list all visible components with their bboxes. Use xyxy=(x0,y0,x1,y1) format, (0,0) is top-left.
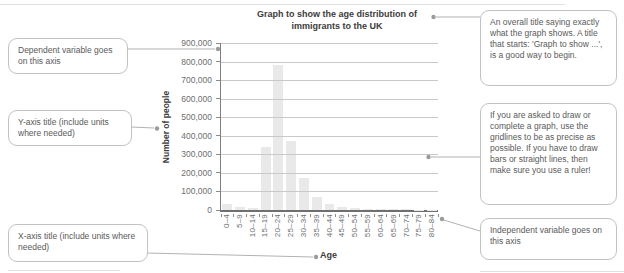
gridline xyxy=(221,154,438,155)
x-tick-label: 25–29 xyxy=(286,214,295,237)
bar-slot xyxy=(298,43,311,210)
bar-slot xyxy=(247,43,260,210)
y-tick-label: 600,000 xyxy=(150,94,212,104)
x-tick-label: 10–14 xyxy=(248,214,257,237)
y-tick xyxy=(216,191,220,192)
y-tick-label: 400,000 xyxy=(150,131,212,141)
bar-slot xyxy=(361,43,374,210)
callout-x-axis-title: X-axis title (include units where needed… xyxy=(8,224,148,262)
y-tick xyxy=(216,154,220,155)
gridline xyxy=(221,117,438,118)
page-rule-bottom-left xyxy=(8,270,120,271)
x-tick xyxy=(310,214,311,217)
callout-independent-variable: Independent variable goes on this axis xyxy=(480,218,617,260)
bar-slot xyxy=(323,43,336,210)
x-tick-slot: 5–9 xyxy=(233,214,246,254)
x-tick-slot: 40–44 xyxy=(323,214,336,254)
x-tick xyxy=(246,214,247,217)
x-tick-slot: 10–14 xyxy=(246,214,259,254)
bar-slot xyxy=(272,43,285,210)
y-tick-label: 800,000 xyxy=(150,57,212,67)
y-tick-label: 500,000 xyxy=(150,112,212,122)
chart-title: Graph to show the age distribution ofimm… xyxy=(227,9,447,32)
bar xyxy=(248,208,258,210)
x-tick-label: 20–24 xyxy=(273,214,282,237)
bar xyxy=(376,209,386,210)
x-tick-slot: 20–24 xyxy=(271,214,284,254)
x-tick-label: 55–59 xyxy=(363,214,372,237)
y-tick-label: 200,000 xyxy=(150,168,212,178)
callout-y-axis-title: Y-axis title (include units where needed… xyxy=(8,110,132,146)
x-axis-tick-labels: 0–45–910–1415–1920–2425–2930–3435–3940–4… xyxy=(220,214,438,254)
x-tick-slot: 0–4 xyxy=(220,214,233,254)
bar-series xyxy=(221,43,438,210)
connector-dot-independent-variable xyxy=(440,217,444,221)
callout-overall-title: An overall title saying exactly what the… xyxy=(480,10,617,86)
y-tick-label: 900,000 xyxy=(150,38,212,48)
x-tick-label: 30–34 xyxy=(299,214,308,237)
x-tick-label: 75–79 xyxy=(414,214,423,237)
bar-slot xyxy=(259,43,272,210)
y-tick xyxy=(216,117,220,118)
bar xyxy=(337,207,347,210)
x-tick-slot: 55–59 xyxy=(361,214,374,254)
y-axis-tick-labels: 900,000800,000700,000600,000500,000400,0… xyxy=(150,43,212,210)
x-tick xyxy=(399,214,400,217)
x-tick-slot: 35–39 xyxy=(310,214,323,254)
y-tick xyxy=(216,135,220,136)
bar xyxy=(401,209,411,210)
x-tick-label: 50–54 xyxy=(350,214,359,237)
x-tick xyxy=(233,214,234,217)
x-tick xyxy=(297,214,298,217)
y-tick-label: 300,000 xyxy=(150,149,212,159)
y-tick xyxy=(216,61,220,62)
callout-gridlines-tip: If you are asked to draw or complete a g… xyxy=(480,103,617,205)
x-tick xyxy=(259,214,260,217)
x-tick-slot: 15–19 xyxy=(258,214,271,254)
x-tick xyxy=(284,214,285,217)
chart-title-line: immigrants to the UK xyxy=(227,21,447,33)
bar-slot xyxy=(234,43,247,210)
x-tick xyxy=(335,214,336,217)
x-tick-slot: 30–34 xyxy=(297,214,310,254)
x-tick-label: 80–84 xyxy=(427,214,436,237)
x-tick-slot: 50–54 xyxy=(348,214,361,254)
bar xyxy=(235,207,245,210)
x-tick xyxy=(374,214,375,217)
x-tick-slot: 45–49 xyxy=(335,214,348,254)
x-tick xyxy=(386,214,387,217)
callout-dependent-variable: Dependent variable goes on this axis xyxy=(8,38,128,74)
gridline xyxy=(221,191,438,192)
bar xyxy=(299,178,309,210)
gridline xyxy=(221,62,438,63)
bar-slot xyxy=(425,43,438,210)
bar xyxy=(273,65,283,210)
x-tick xyxy=(348,214,349,217)
gridline xyxy=(221,173,438,174)
y-tick xyxy=(216,80,220,81)
page-rule-top xyxy=(0,4,565,5)
bar xyxy=(261,147,271,210)
bar xyxy=(388,209,398,210)
x-tick xyxy=(323,214,324,217)
x-tick-label: 5–9 xyxy=(235,214,244,228)
y-tick xyxy=(216,172,220,173)
x-tick xyxy=(425,214,426,217)
x-tick-slot: 70–74 xyxy=(400,214,413,254)
y-tick xyxy=(216,43,220,44)
bar-slot xyxy=(387,43,400,210)
bar xyxy=(286,141,296,210)
x-axis-title: Age xyxy=(220,250,437,260)
bar xyxy=(325,204,335,210)
page-rule-bottom-right xyxy=(480,271,624,272)
x-tick-label: 15–19 xyxy=(260,214,269,237)
chart-title-line: Graph to show the age distribution of xyxy=(227,9,447,21)
x-tick xyxy=(221,214,222,217)
x-tick xyxy=(361,214,362,217)
bar-slot xyxy=(412,43,425,210)
bar xyxy=(350,208,360,210)
x-tick-label: 70–74 xyxy=(402,214,411,237)
bar-slot xyxy=(400,43,413,210)
x-tick-slot: 25–29 xyxy=(284,214,297,254)
x-tick-slot: 60–64 xyxy=(374,214,387,254)
